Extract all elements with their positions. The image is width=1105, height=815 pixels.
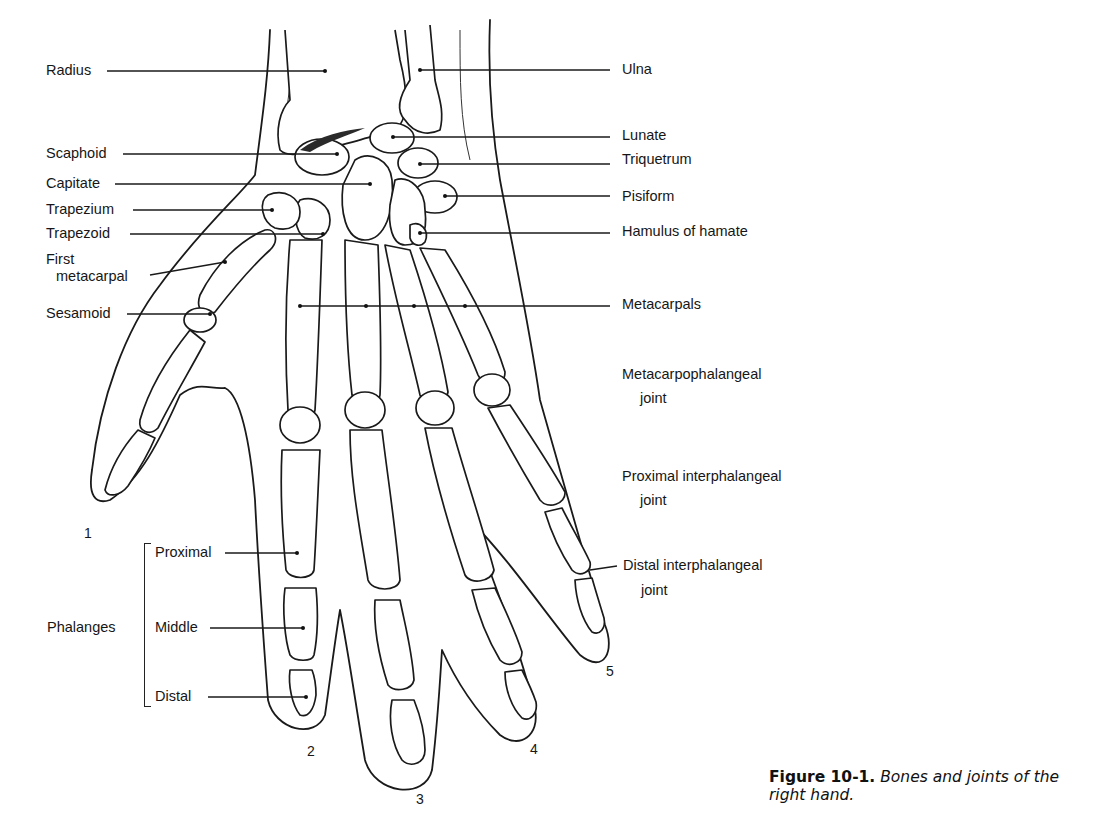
digit-number-2: 2 (307, 743, 315, 759)
label-mcp-joint-line2: joint (640, 390, 667, 407)
label-mcp-joint-line1: Metacarpophalangeal (622, 366, 761, 383)
label-metacarpals: Metacarpals (622, 296, 701, 313)
label-dip-joint-line2: joint (641, 582, 668, 599)
label-radius: Radius (46, 62, 91, 79)
label-capitate: Capitate (46, 175, 100, 192)
label-first-metacarpal-line2: metacarpal (56, 268, 128, 285)
label-trapezoid: Trapezoid (46, 225, 110, 242)
digit-number-1: 1 (84, 525, 92, 541)
label-distal-phalanx: Distal (155, 688, 191, 705)
label-pisiform: Pisiform (622, 188, 674, 205)
label-scaphoid: Scaphoid (46, 145, 106, 162)
caption-line1: Bones and joints of the (880, 768, 1059, 786)
label-triquetrum: Triquetrum (622, 151, 692, 168)
trapezoid-bone (295, 199, 330, 239)
caption-line2: right hand. (769, 786, 854, 804)
hand-bones-figure: Radius Scaphoid Capitate Trapezium Trape… (0, 0, 1105, 815)
figure-caption: Figure 10-1. Bones and joints of the rig… (769, 768, 1105, 804)
trapezium-bone (262, 193, 300, 229)
label-first-metacarpal-line1: First (46, 251, 74, 268)
label-lunate: Lunate (622, 127, 666, 144)
label-pip-joint-line2: joint (640, 492, 667, 509)
triquetrum-bone (398, 148, 438, 178)
digit-number-4: 4 (530, 741, 538, 757)
digit-number-5: 5 (606, 663, 614, 679)
label-middle-phalanx: Middle (155, 619, 198, 636)
label-dip-joint-line1: Distal interphalangeal (623, 557, 762, 574)
first-metacarpal-bone (199, 230, 276, 314)
capitate-bone (342, 156, 392, 240)
label-pip-joint-line1: Proximal interphalangeal (622, 468, 782, 485)
label-proximal-phalanx: Proximal (155, 544, 211, 561)
phalanges-bracket (144, 543, 151, 707)
figure-number: Figure 10-1. (769, 768, 875, 786)
label-sesamoid: Sesamoid (46, 305, 110, 322)
label-ulna: Ulna (622, 61, 652, 78)
label-phalanges: Phalanges (47, 619, 116, 636)
label-hamulus-of-hamate: Hamulus of hamate (622, 223, 748, 240)
digit-number-3: 3 (416, 791, 424, 807)
label-trapezium: Trapezium (46, 201, 114, 218)
